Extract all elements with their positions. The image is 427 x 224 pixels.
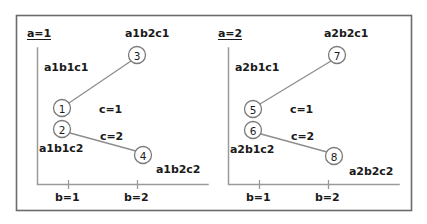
panel-a1-tick-label-b2: b=2: [124, 192, 148, 203]
panel-a1-node-3: 3: [129, 47, 146, 64]
node-id: 5: [250, 104, 257, 116]
panel-a1-node-4: 4: [135, 147, 152, 164]
node-id: 7: [334, 50, 341, 62]
panel-a1-label-a1b1c1: a1b1c1: [44, 62, 88, 73]
panel-a2-label-a2b2c1: a2b2c1: [324, 28, 368, 39]
diagram-figure: 3 1 2 4 7: [0, 0, 427, 224]
panel-a1-node-1: 1: [54, 100, 71, 117]
node-id: 3: [134, 50, 141, 62]
panel-a2-edge-label-c2: c=2: [291, 131, 314, 142]
panel-a2-node-7: 7: [329, 47, 346, 64]
panel-a1-label-a1b2c1: a1b2c1: [125, 28, 169, 39]
panel-a2-label-a2b1c1: a2b1c1: [235, 62, 279, 73]
panel-a1-tick-label-b1: b=1: [55, 192, 79, 203]
panel-a2-tick-label-b2: b=2: [315, 192, 339, 203]
panel-a2-edge-label-c1: c=1: [290, 104, 313, 115]
panel-a2-label-a2b2c2: a2b2c2: [349, 166, 393, 177]
panel-a2-node-8: 8: [326, 148, 343, 165]
panel-a1-label-a1b1c2: a1b1c2: [39, 143, 83, 154]
panel-a2-label-a2b1c2: a2b1c2: [230, 144, 274, 155]
panel-a1-title: a=1: [27, 28, 51, 39]
panel-a2-title: a=2: [218, 28, 242, 39]
panel-a2-node-5: 5: [245, 101, 262, 118]
node-id: 2: [59, 124, 66, 136]
node-id: 1: [59, 103, 66, 115]
panel-a1-label-a1b2c2: a1b2c2: [156, 164, 200, 175]
panel-a1-edge-label-c1: c=1: [99, 104, 122, 115]
node-id: 8: [331, 151, 338, 163]
node-id: 6: [250, 125, 257, 137]
panel-a2-tick-label-b1: b=1: [246, 192, 270, 203]
panel-a2-node-6: 6: [245, 122, 262, 139]
panel-a1-edge-label-c2: c=2: [100, 131, 123, 142]
panel-a1-node-2: 2: [54, 121, 71, 138]
figure-frame: [17, 16, 412, 211]
node-id: 4: [140, 150, 147, 162]
